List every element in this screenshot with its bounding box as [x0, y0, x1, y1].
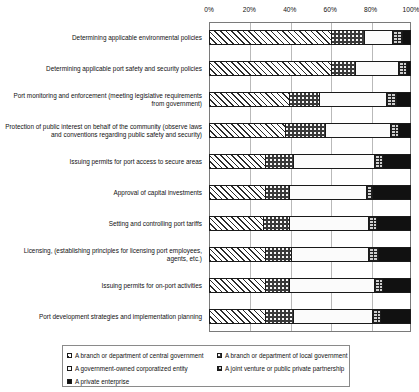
bar-segment — [373, 185, 411, 200]
stacked-bar-chart: 0%20%40%60%80%100% Determining applicabl… — [0, 0, 419, 392]
legend-item[interactable]: A private enterprise — [67, 375, 219, 387]
bar-row — [209, 216, 411, 231]
bar-row — [209, 278, 411, 293]
bar-segment — [377, 216, 411, 231]
x-tick-label: 100% — [403, 6, 419, 14]
bar-segment — [399, 61, 407, 76]
stacked-bar — [209, 185, 411, 200]
bar-segment — [320, 92, 387, 107]
x-tick-label: 80% — [364, 6, 377, 14]
bar-segment — [391, 123, 399, 138]
bar-row — [209, 309, 411, 324]
legend-item[interactable]: A branch or department of local governme… — [217, 349, 349, 361]
legend-label: A government-owned corporatized entity — [75, 365, 188, 372]
bar-segment — [294, 309, 373, 324]
bar-row — [209, 154, 411, 169]
bar-rows — [209, 22, 411, 332]
legend-item[interactable]: A branch or department of central govern… — [67, 349, 219, 361]
bar-segment — [365, 30, 393, 45]
bar-segment — [290, 92, 320, 107]
bar-segment — [383, 154, 411, 169]
bar-segment — [369, 247, 379, 262]
bar-segment — [373, 309, 381, 324]
bar-row — [209, 123, 411, 138]
x-tick-label: 60% — [324, 6, 337, 14]
bar-segment — [292, 247, 369, 262]
bar-segment — [209, 61, 332, 76]
bar-segment — [209, 123, 286, 138]
category-label: Licensing, (establishing principles for … — [2, 247, 202, 262]
chart-legend: A branch or department of central govern… — [62, 345, 350, 387]
bar-segment — [266, 278, 290, 293]
bar-segment — [326, 123, 391, 138]
legend-item[interactable]: A joint venture or public private partne… — [217, 362, 349, 374]
category-label: Issuing permits for port access to secur… — [2, 158, 202, 166]
bar-segment — [332, 61, 356, 76]
bar-segment — [290, 278, 375, 293]
bar-segment — [266, 185, 290, 200]
bar-segment — [369, 216, 377, 231]
bar-segment — [209, 154, 266, 169]
legend-label: A joint venture or public private partne… — [225, 365, 344, 372]
bar-segment — [397, 92, 411, 107]
bar-row — [209, 247, 411, 262]
category-axis-labels: Determining applicable environmental pol… — [0, 22, 206, 332]
bar-segment — [387, 92, 397, 107]
bar-row — [209, 61, 411, 76]
category-label: Approval of capital investments — [2, 189, 202, 197]
bar-segment — [393, 30, 403, 45]
bar-segment — [383, 278, 411, 293]
legend-label: A branch or department of central govern… — [75, 352, 203, 359]
bar-segment — [209, 278, 266, 293]
bar-segment — [209, 185, 266, 200]
bar-segment — [286, 123, 326, 138]
bar-segment — [379, 247, 411, 262]
legend-swatch-icon — [67, 366, 72, 371]
bar-segment — [209, 92, 290, 107]
bar-segment — [209, 216, 264, 231]
category-label: Port development strategies and implemen… — [2, 313, 202, 321]
category-label: Setting and controlling port tariffs — [2, 220, 202, 228]
bar-segment — [294, 154, 375, 169]
bar-segment — [403, 30, 411, 45]
bar-segment — [332, 30, 364, 45]
category-label: Port monitoring and enforcement (meeting… — [2, 92, 202, 107]
bar-segment — [266, 247, 292, 262]
bar-segment — [375, 278, 383, 293]
stacked-bar — [209, 61, 411, 76]
bar-segment — [290, 185, 367, 200]
x-tick-label: 40% — [283, 6, 296, 14]
legend-label: A private enterprise — [75, 378, 129, 385]
category-label: Determining applicable environmental pol… — [2, 34, 202, 42]
bar-segment — [399, 123, 411, 138]
stacked-bar — [209, 30, 411, 45]
legend-swatch-icon — [67, 353, 72, 358]
bar-segment — [266, 309, 294, 324]
stacked-bar — [209, 154, 411, 169]
bar-segment — [381, 309, 411, 324]
category-label: Issuing permits for on-port activities — [2, 282, 202, 290]
legend-item[interactable]: A government-owned corporatized entity — [67, 362, 219, 374]
legend-column-left: A branch or department of central govern… — [67, 349, 219, 388]
bar-segment — [264, 216, 290, 231]
bar-row — [209, 30, 411, 45]
legend-swatch-icon — [67, 379, 72, 384]
bar-row — [209, 185, 411, 200]
x-axis-tick-labels: 0%20%40%60%80%100% — [209, 6, 411, 20]
bar-segment — [407, 61, 411, 76]
x-tick-label: 0% — [204, 6, 214, 14]
bar-segment — [209, 309, 266, 324]
legend-swatch-icon — [217, 366, 222, 371]
bar-segment — [375, 154, 383, 169]
legend-label: A branch or department of local governme… — [225, 352, 348, 359]
legend-swatch-icon — [217, 353, 222, 358]
bar-segment — [209, 247, 266, 262]
bar-segment — [290, 216, 369, 231]
stacked-bar — [209, 123, 411, 138]
legend-column-right: A branch or department of local governme… — [217, 349, 349, 375]
bar-row — [209, 92, 411, 107]
stacked-bar — [209, 92, 411, 107]
x-tick-label: 20% — [243, 6, 256, 14]
bar-segment — [356, 61, 398, 76]
stacked-bar — [209, 309, 411, 324]
